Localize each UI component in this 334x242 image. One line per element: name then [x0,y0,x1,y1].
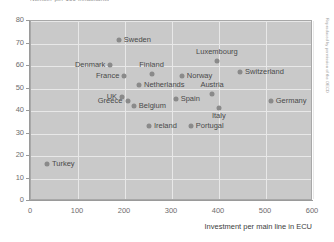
y-axis-tick-mark [26,20,29,21]
data-point [238,69,243,74]
y-axis-tick-mark [26,110,29,111]
y-axis-line [29,20,30,201]
data-point [209,92,214,97]
data-point [268,99,273,104]
data-point [137,83,142,88]
data-point-label: Germany [276,97,307,105]
data-point-label: Portugal [196,122,224,130]
y-axis-tick-label: 20 [2,151,24,159]
data-point-label: Netherlands [144,81,184,89]
data-point [149,72,154,77]
y-axis-tick-label: 80 [2,16,24,24]
data-point [122,74,127,79]
data-point [125,99,130,104]
data-point-label: Belgium [139,102,166,110]
x-axis-title: Investment per main line in ECU [204,222,312,231]
x-axis-tick-label: 600 [297,207,327,215]
data-point-label: Italy [212,112,226,120]
gridline-vertical [172,21,173,199]
y-axis-tick-label: 0 [2,196,24,204]
x-axis-tick-label: 500 [250,207,280,215]
data-point [179,74,184,79]
gridline-horizontal [31,156,311,157]
gridline-horizontal [31,44,311,45]
data-point-label: Switzerland [245,68,284,76]
y-axis-tick-mark [26,43,29,44]
y-axis-tick-mark [26,88,29,89]
data-point-label: France [96,72,119,80]
gridline-vertical [313,21,314,199]
gridline-horizontal [31,179,311,180]
data-point [146,123,151,128]
gridline-horizontal [31,111,311,112]
data-point [44,162,49,167]
gridline-horizontal [31,134,311,135]
x-axis-tick-label: 100 [62,207,92,215]
data-point-label: Turkey [52,160,75,168]
data-point [116,38,121,43]
gridline-vertical [78,21,79,199]
data-point-label: Finland [139,61,164,69]
chart-title: Number per 100 inhabitants [30,0,109,4]
data-point-label: Ireland [154,122,177,130]
y-axis-tick-label: 10 [2,174,24,182]
plot-area [30,20,312,200]
x-axis-tick-label: 300 [156,207,186,215]
data-point [131,103,136,108]
data-point [215,58,220,63]
y-axis-tick-label: 30 [2,129,24,137]
data-point-label: Norway [187,72,212,80]
y-axis-tick-label: 60 [2,61,24,69]
y-axis-tick-label: 40 [2,106,24,114]
x-axis-tick-label: 400 [203,207,233,215]
gridline-vertical [125,21,126,199]
x-axis-tick-label: 200 [109,207,139,215]
y-axis-tick-mark [26,155,29,156]
data-point [188,123,193,128]
data-point-label: Greece [98,97,123,105]
scatter-chart-figure: Number per 100 inhabitants Investment pe… [0,0,334,242]
data-point [173,96,178,101]
gridline-horizontal [31,21,311,22]
data-point-label: Sweden [124,36,151,44]
y-axis-tick-mark [26,133,29,134]
data-point-label: Denmark [75,61,105,69]
x-axis-tick-label: 0 [15,207,45,215]
data-point-label: Luxembourg [196,48,238,56]
y-axis-tick-label: 50 [2,84,24,92]
data-point-label: Spain [181,95,200,103]
y-axis-tick-mark [26,65,29,66]
data-point [216,105,221,110]
gridline-vertical [266,21,267,199]
y-axis-tick-mark [26,178,29,179]
y-axis-tick-mark [26,200,29,201]
x-axis-line [29,200,313,201]
data-point-label: Austria [200,81,223,89]
side-credit-text: Reproduced by permission of the OECD [323,18,332,93]
data-point [107,63,112,68]
y-axis-tick-label: 70 [2,39,24,47]
